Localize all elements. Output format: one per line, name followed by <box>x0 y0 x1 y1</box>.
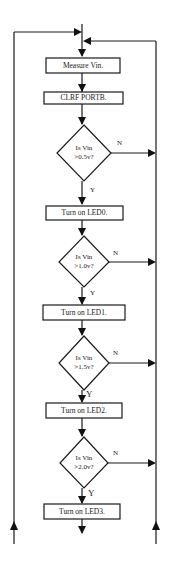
decision-line1: Is Vin <box>59 144 109 153</box>
arrow-down-icon <box>78 84 86 92</box>
arrow-up-icon <box>152 521 160 530</box>
arrow-down-icon <box>78 117 86 125</box>
decision-line2: >0.5v? <box>59 153 109 162</box>
arrow-down-icon <box>78 228 86 236</box>
yes-label-2: Y <box>90 290 95 297</box>
no-label-3: N <box>113 350 118 357</box>
decision-label-1: Is Vin >0.5v? <box>59 144 109 162</box>
no-label-2: N <box>113 250 118 257</box>
arrow-down-icon <box>78 49 86 57</box>
process-label-led3: Turn on LED3. <box>44 508 120 516</box>
process-label-led0: Turn on LED0. <box>46 209 123 217</box>
no-label-1: N <box>117 140 122 147</box>
decision-label-4: Is Vin >2.0v? <box>60 454 108 472</box>
arrow-right-icon <box>148 359 156 367</box>
decision-line2: >2.0v? <box>60 463 108 472</box>
arrow-up-icon <box>10 521 18 530</box>
arrow-right-icon <box>148 258 156 266</box>
no-label-4: N <box>113 450 118 457</box>
process-label-measure: Measure Vin. <box>46 62 120 70</box>
arrow-down-icon <box>78 297 86 305</box>
yes-label-1: Y <box>90 187 95 194</box>
arrow-right-icon <box>148 149 156 157</box>
arrow-down-icon <box>78 197 86 205</box>
yes-label-3: Y <box>86 390 93 399</box>
decision-line1: Is Vin <box>60 454 108 463</box>
yes-label-4: Y <box>88 489 95 498</box>
arrow-down-icon <box>78 526 86 534</box>
arrow-down-icon <box>78 328 86 336</box>
process-label-led2: Turn on LED2. <box>46 407 122 415</box>
left-loop-arrow-icon <box>74 28 82 36</box>
arrow-down-icon <box>78 429 86 437</box>
flowchart-connectors <box>0 0 170 568</box>
decision-line2: >1.5v? <box>59 363 109 372</box>
decision-label-2: Is Vin >1.0v? <box>59 253 109 271</box>
decision-label-3: Is Vin >1.5v? <box>59 354 109 372</box>
decision-line2: >1.0v? <box>59 262 109 271</box>
process-label-clrf: CLRF PORTB. <box>44 94 123 102</box>
arrow-right-icon <box>148 459 156 467</box>
arrow-down-icon <box>78 496 86 504</box>
arrow-down-icon <box>78 395 86 403</box>
decision-line1: Is Vin <box>59 354 109 363</box>
process-label-led1: Turn on LED1. <box>43 309 125 317</box>
flowchart: Measure Vin. CLRF PORTB. Turn on LED0. T… <box>0 0 170 568</box>
right-loop-arrow-icon <box>83 37 91 45</box>
decision-line1: Is Vin <box>59 253 109 262</box>
